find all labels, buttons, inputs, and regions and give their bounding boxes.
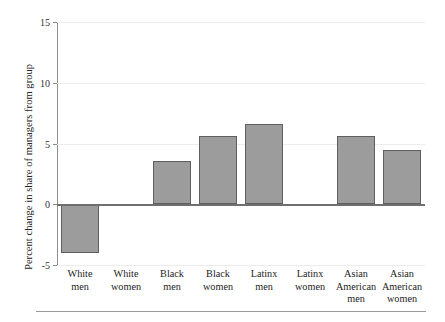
x-axis-label: Whitewomen [103,268,149,293]
x-label-line: men [57,281,103,294]
bottom-rule [36,311,426,312]
x-axis-label: AsianAmericanwomen [379,268,425,306]
zero-baseline [57,204,425,205]
x-label-line: men [241,281,287,294]
bar [337,136,375,204]
y-tick-mark [53,265,57,266]
x-axis-label: Blackmen [149,268,195,293]
x-label-line: Latinx [287,268,333,281]
gridline [57,265,425,266]
plot-area: 151050-5 [57,22,425,265]
x-label-line: women [379,293,425,306]
y-tick-label: -5 [42,260,50,271]
y-tick-label: 0 [45,199,50,210]
x-axis-label: Whitemen [57,268,103,293]
x-axis-label: Latinxwomen [287,268,333,293]
y-tick-mark [53,22,57,23]
gridline [57,83,425,84]
y-tick-label: 5 [45,138,50,149]
x-axis-label: AsianAmericanmen [333,268,379,306]
x-label-line: American [333,281,379,294]
y-tick-label: 15 [40,17,50,28]
y-axis-title: Percent change in share of managers from… [22,20,36,270]
bar [245,124,283,204]
x-label-line: Asian [333,268,379,281]
x-label-line: Black [195,268,241,281]
x-label-line: women [287,281,333,294]
x-axis-label: Blackwomen [195,268,241,293]
x-label-line: Latinx [241,268,287,281]
x-label-line: American [379,281,425,294]
x-label-line: Black [149,268,195,281]
bar-chart-figure: Percent change in share of managers from… [0,0,445,322]
y-tick-label: 10 [40,77,50,88]
x-axis-labels-group: WhitemenWhitewomenBlackmenBlackwomenLati… [57,268,425,312]
x-label-line: White [57,268,103,281]
bar [199,136,237,205]
bar [383,150,421,204]
x-label-line: women [195,281,241,294]
bar [61,204,99,253]
x-label-line: Asian [379,268,425,281]
x-axis-label: Latinxmen [241,268,287,293]
x-label-line: men [149,281,195,294]
x-label-line: women [103,281,149,294]
gridline [57,22,425,23]
x-label-line: White [103,268,149,281]
y-tick-mark [53,144,57,145]
y-tick-mark [53,83,57,84]
x-label-line: men [333,293,379,306]
bar [153,161,191,205]
